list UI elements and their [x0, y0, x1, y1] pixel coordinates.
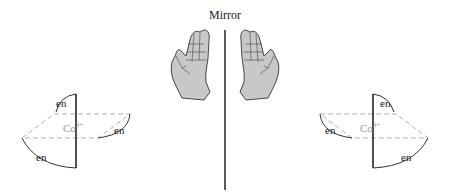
right-en-label-2: en: [325, 124, 336, 136]
left-hand-icon: [171, 30, 210, 100]
right-hand-icon: [240, 30, 279, 100]
left-en-arc-bottom: [22, 138, 76, 168]
mirror-image-diagram: Mirror en en en Co3+ en en e: [0, 0, 449, 194]
left-en-label-3: en: [36, 151, 47, 163]
right-metal-label: Co3+: [360, 121, 380, 134]
left-complex: en en en Co3+: [22, 94, 130, 168]
left-metal-label: Co3+: [63, 121, 83, 134]
left-en-label-1: en: [56, 97, 67, 109]
left-en-label-2: en: [114, 124, 125, 136]
right-complex: en en en Co3+: [320, 94, 428, 168]
right-en-label-1: en: [380, 97, 391, 109]
right-en-label-3: en: [401, 151, 412, 163]
mirror-label: Mirror: [209, 8, 241, 22]
